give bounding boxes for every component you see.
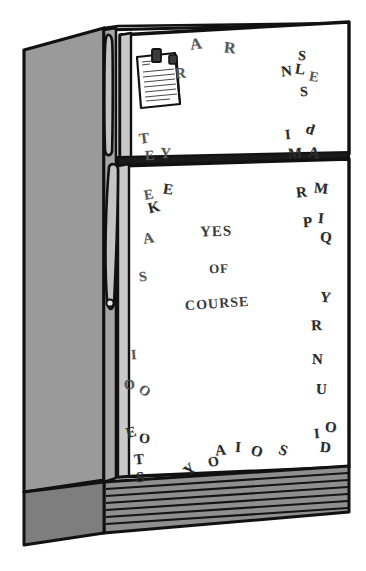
magnet-letter: R [311,318,322,333]
magnet-letter: M [287,146,302,162]
magnet-letter: S [135,470,144,486]
magnet-letter: S [300,85,309,100]
magnet-letter: A [142,230,155,247]
magnet-letter: O [324,419,337,435]
message-word: OF [209,261,230,278]
magnet-letter: E [162,181,174,197]
magnet-letter: R [295,184,307,200]
refrigerator-illustration [0,0,366,571]
magnet-letter: D [319,439,331,455]
handle-end-cap [106,299,113,306]
magnet-letter: I [131,348,137,362]
magnet-letter: N [312,352,323,367]
magnet-letter: O [139,432,151,447]
shopping-list-note[interactable] [137,49,180,108]
message-word: YES [200,222,233,240]
magnet-letter: R [174,66,186,82]
magnet-letter: L [294,61,306,77]
magnet-letter: T [133,452,145,468]
magnet-letter: A [189,35,203,52]
magnet-letter: S [138,270,148,285]
magnet-letter: I [234,440,241,455]
magnet-letter: Y [159,146,171,162]
magnet-letter: T [138,130,150,146]
magnet-letter: A [307,144,320,161]
magnet-letter: Y [319,289,331,305]
magnet-letter: O [207,454,220,470]
magnet-letter: Q [319,230,332,246]
magnet-letter: M [313,180,329,196]
illustration-canvas: YESOFCOURSE ARRSNLESIdMATEYEEKASRMPIQYRN… [0,0,366,571]
magnet-letter: P [302,215,312,231]
freezer-door-handle[interactable] [104,35,112,155]
magnet-letter: U [316,382,327,397]
left-side-panel [24,28,104,492]
magnet-letter: O [123,377,136,392]
magnet-letter: R [223,39,236,56]
grille-side-face [24,482,104,545]
magnet-letter: E [145,149,155,164]
magnet-letter: N [280,63,292,79]
freezer-door-bevel [120,33,131,159]
